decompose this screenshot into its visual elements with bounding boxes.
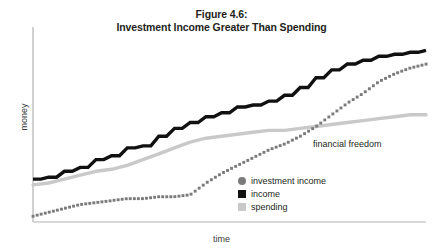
investment-income-dot	[96, 201, 99, 204]
investment-income-dot	[161, 195, 164, 198]
investment-income-dot	[283, 143, 286, 146]
investment-income-dot	[68, 206, 71, 209]
investment-income-dot	[336, 110, 339, 113]
investment-income-dot	[279, 144, 282, 147]
series-line-spending	[33, 115, 426, 185]
legend-marker-square-icon	[238, 203, 246, 211]
investment-income-dot	[190, 193, 193, 196]
investment-income-dot	[80, 203, 83, 206]
investment-income-dot	[340, 107, 343, 110]
investment-income-dot	[165, 195, 168, 198]
annotation-financial-freedom: financial freedom	[313, 139, 382, 149]
legend-item: income	[238, 188, 326, 199]
investment-income-dot	[344, 104, 347, 107]
investment-income-dot	[327, 116, 330, 119]
investment-income-dot	[412, 66, 415, 69]
investment-income-dot	[315, 125, 318, 128]
investment-income-dot	[117, 198, 120, 201]
investment-income-dot	[92, 201, 95, 204]
investment-income-dot	[307, 130, 310, 133]
investment-income-dot	[52, 210, 55, 213]
investment-income-dot	[323, 119, 326, 122]
investment-income-dot	[400, 70, 403, 73]
investment-income-dot	[331, 113, 334, 116]
investment-income-dot	[113, 199, 116, 202]
investment-income-dot	[311, 127, 314, 130]
investment-income-dot	[36, 214, 39, 217]
investment-income-dot	[202, 184, 205, 187]
investment-income-dot	[364, 90, 367, 93]
chart-figure: Figure 4.6: Investment Income Greater Th…	[0, 0, 443, 252]
investment-income-dot	[356, 96, 359, 99]
investment-income-dot	[246, 159, 249, 162]
y-axis-label: money	[19, 87, 29, 147]
investment-income-dot	[153, 196, 156, 199]
investment-income-dot	[376, 81, 379, 84]
investment-income-dot	[84, 202, 87, 205]
investment-income-dot	[242, 161, 245, 164]
investment-income-dot	[32, 215, 35, 218]
investment-income-dot	[404, 68, 407, 71]
investment-income-dot	[186, 194, 189, 197]
investment-income-dot	[372, 84, 375, 87]
investment-income-dot	[88, 202, 91, 205]
investment-income-dot	[56, 209, 59, 212]
plot-area	[0, 0, 443, 252]
investment-income-dot	[210, 178, 213, 181]
investment-income-dot	[254, 155, 257, 158]
investment-income-dot	[145, 197, 148, 200]
investment-income-dot	[157, 195, 160, 198]
investment-income-dot	[380, 79, 383, 82]
investment-income-dot	[250, 157, 253, 160]
investment-income-dot	[105, 200, 108, 203]
investment-income-dot	[287, 141, 290, 144]
investment-income-dot	[129, 197, 132, 200]
investment-income-dot	[214, 176, 217, 179]
investment-income-dot	[396, 71, 399, 74]
investment-income-dot	[388, 75, 391, 78]
investment-income-dot	[40, 213, 43, 216]
investment-income-dot	[263, 151, 266, 154]
investment-income-dot	[133, 197, 136, 200]
legend-item: investment income	[238, 175, 326, 186]
investment-income-dot	[238, 163, 241, 166]
investment-income-dot	[230, 167, 233, 170]
investment-income-dot	[271, 147, 274, 150]
investment-income-dot	[60, 208, 63, 211]
investment-income-dot	[137, 197, 140, 200]
investment-income-dot	[368, 87, 371, 90]
legend-label: investment income	[251, 176, 326, 186]
investment-income-dot	[149, 196, 152, 199]
investment-income-dot	[275, 146, 278, 149]
investment-income-dot	[48, 211, 51, 214]
investment-income-dot	[352, 98, 355, 101]
legend-label: spending	[251, 202, 288, 212]
investment-income-dot	[44, 212, 47, 215]
investment-income-dot	[178, 195, 181, 198]
investment-income-dot	[101, 200, 104, 203]
investment-income-dot	[72, 205, 75, 208]
investment-income-dot	[408, 67, 411, 70]
investment-income-dot	[348, 101, 351, 104]
legend-label: income	[251, 189, 280, 199]
investment-income-dot	[173, 195, 176, 198]
investment-income-dot	[109, 199, 112, 202]
legend-item: spending	[238, 201, 326, 212]
legend-marker-square-icon	[238, 190, 246, 198]
investment-income-dot	[421, 64, 424, 67]
investment-income-dot	[222, 171, 225, 174]
investment-income-dot	[319, 122, 322, 125]
investment-income-dot	[234, 165, 237, 168]
investment-income-dot	[125, 197, 128, 200]
investment-income-dot	[226, 169, 229, 172]
chart-legend: investment incomeincomespending	[238, 175, 326, 212]
investment-income-dot	[206, 181, 209, 184]
investment-income-dot	[267, 149, 270, 152]
investment-income-dot	[417, 65, 420, 68]
investment-income-dot	[295, 137, 298, 140]
investment-income-dot	[121, 198, 124, 201]
investment-income-dot	[299, 135, 302, 138]
investment-income-dot	[182, 194, 185, 197]
investment-income-dot	[76, 204, 79, 207]
investment-income-dot	[392, 73, 395, 76]
